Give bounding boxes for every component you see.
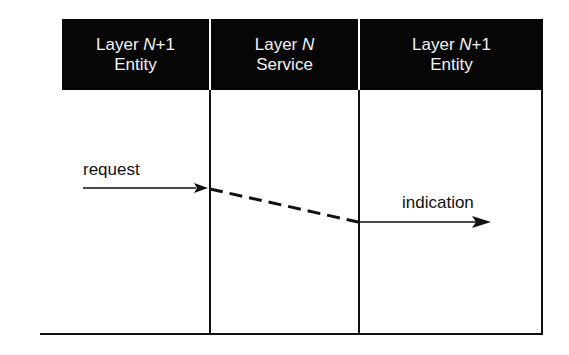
arrows-layer [0,0,569,355]
dashed-service-line [210,189,358,222]
layer-service-diagram: Layer N+1 Entity Layer N Service Layer N… [0,0,569,355]
indication-arrow-icon [358,216,491,228]
request-arrow-icon [83,183,208,193]
